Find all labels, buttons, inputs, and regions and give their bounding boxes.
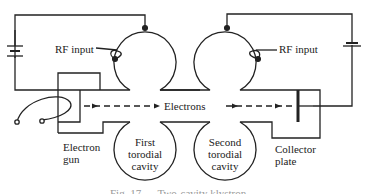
rf-input-left-label: RF input [55,43,94,55]
battery-right-icon [343,43,361,46]
rf-input-right-label: RF input [279,43,318,55]
electron-gun-body [58,73,130,133]
second-cavity-label: Second torodial cavity [200,136,250,172]
heater-filament-icon [15,97,71,124]
electrons-label: Electrons [164,100,206,112]
collector-plate-label: Collector plate [275,143,316,167]
electron-gun-label: Electron gun [63,141,100,165]
second-cavity-top [160,26,277,90]
first-cavity-top [96,26,200,90]
battery-left-icon [7,30,23,72]
first-cavity-label: First torodial cavity [120,136,170,172]
klystron-diagram: RF input RF input Electrons Electron gun… [0,0,369,194]
right-circuit-wire [227,14,352,106]
figure-caption: Fig. 17.__ Two-cavity klystron [110,187,246,194]
